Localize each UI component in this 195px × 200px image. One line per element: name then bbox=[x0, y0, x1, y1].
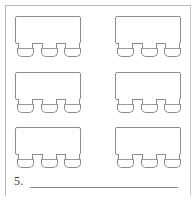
table-figure bbox=[114, 16, 184, 60]
chair-icon bbox=[17, 154, 34, 169]
chair-icon bbox=[164, 99, 181, 114]
figure-grid bbox=[0, 0, 195, 172]
chair-group bbox=[114, 154, 184, 170]
chair-icon bbox=[164, 154, 181, 169]
table-top-icon bbox=[15, 16, 81, 44]
chair-icon bbox=[141, 154, 158, 169]
chair-icon bbox=[117, 99, 134, 114]
chair-icon bbox=[17, 43, 34, 58]
chair-seat bbox=[64, 48, 81, 57]
chair-seat bbox=[164, 48, 181, 57]
chair-seat bbox=[17, 159, 34, 168]
chair-group bbox=[14, 154, 84, 170]
chair-seat bbox=[141, 159, 158, 168]
question-row: 5. bbox=[0, 172, 195, 196]
chair-group bbox=[114, 43, 184, 59]
chair-seat bbox=[17, 48, 34, 57]
table-top-icon bbox=[15, 127, 81, 155]
chair-seat bbox=[117, 159, 134, 168]
chair-icon bbox=[141, 43, 158, 58]
chair-seat bbox=[141, 104, 158, 113]
table-top-icon bbox=[115, 72, 181, 100]
chair-group bbox=[14, 99, 84, 115]
table-top-icon bbox=[15, 72, 81, 100]
chair-seat bbox=[41, 48, 58, 57]
table-top-icon bbox=[115, 16, 181, 44]
chair-icon bbox=[64, 154, 81, 169]
chair-icon bbox=[64, 43, 81, 58]
table-figure bbox=[14, 72, 84, 116]
chair-seat bbox=[164, 104, 181, 113]
chair-seat bbox=[141, 48, 158, 57]
chair-icon bbox=[41, 43, 58, 58]
table-figure bbox=[14, 127, 84, 171]
chair-icon bbox=[117, 43, 134, 58]
chair-icon bbox=[41, 99, 58, 114]
chair-group bbox=[114, 99, 184, 115]
table-figure bbox=[114, 72, 184, 116]
chair-icon bbox=[41, 154, 58, 169]
chair-icon bbox=[164, 43, 181, 58]
chair-icon bbox=[141, 99, 158, 114]
chair-seat bbox=[41, 159, 58, 168]
chair-seat bbox=[41, 104, 58, 113]
chair-seat bbox=[117, 48, 134, 57]
table-figure bbox=[114, 127, 184, 171]
chair-icon bbox=[117, 154, 134, 169]
chair-icon bbox=[64, 99, 81, 114]
chair-seat bbox=[64, 104, 81, 113]
table-figure bbox=[14, 16, 84, 60]
chair-seat bbox=[64, 159, 81, 168]
chair-seat bbox=[164, 159, 181, 168]
chair-seat bbox=[117, 104, 134, 113]
question-number: 5. bbox=[14, 174, 23, 189]
table-top-icon bbox=[115, 127, 181, 155]
chair-icon bbox=[17, 99, 34, 114]
chair-seat bbox=[17, 104, 34, 113]
worksheet-page: 5. bbox=[0, 0, 195, 200]
answer-blank-line[interactable] bbox=[30, 187, 178, 188]
chair-group bbox=[14, 43, 84, 59]
